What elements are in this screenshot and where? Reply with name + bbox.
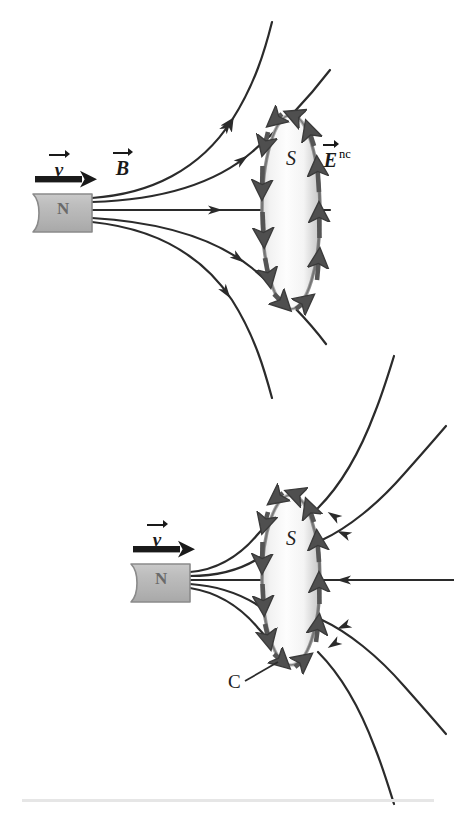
physics-figure: v B E nc S N v S C N [0, 0, 454, 821]
velocity-arrow-bottom [133, 541, 195, 558]
bar-magnet-bottom [131, 564, 190, 602]
velocity-arrow-top [35, 171, 97, 188]
bottom-divider [22, 799, 434, 802]
loop-label-leader-line [245, 662, 278, 681]
bottom-panel-group [131, 356, 454, 804]
bar-magnet-top [33, 194, 92, 232]
top-panel-group [33, 22, 330, 398]
figure-canvas [0, 0, 454, 821]
